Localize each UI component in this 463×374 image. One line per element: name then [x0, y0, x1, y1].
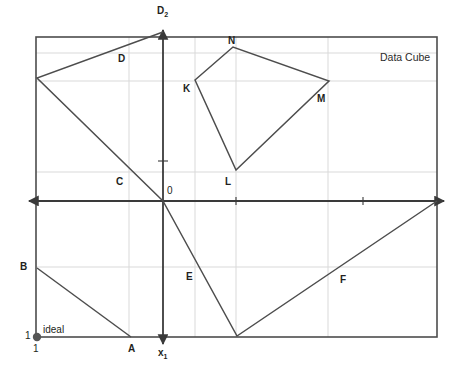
ideal-label: ideal	[43, 325, 64, 335]
diagram-shapes	[37, 32, 437, 337]
shape-quadrilateral-KLMN	[195, 47, 329, 170]
point-label-l: L	[225, 177, 231, 187]
y-axis-label-subscript: 2	[164, 11, 168, 18]
data-cube-diagram: D2 x1 0 ideal 1 1 Data Cube ABCDEFKLMN	[0, 0, 463, 374]
x-axis-label: x1	[158, 348, 167, 360]
point-label-k: K	[183, 84, 190, 94]
shape-upper-left-wedge	[37, 32, 163, 201]
point-label-a: A	[128, 344, 135, 354]
chart-title: Data Cube	[380, 52, 430, 63]
point-label-e: E	[186, 272, 193, 282]
point-label-c: C	[116, 177, 123, 187]
ideal-tick-y-label: 1	[25, 331, 31, 341]
point-label-f: F	[340, 275, 346, 285]
origin-label: 0	[167, 186, 173, 196]
point-label-m: M	[317, 94, 325, 104]
point-label-n: N	[228, 36, 235, 46]
y-axis-label: D2	[157, 6, 168, 18]
ideal-tick-x-label: 1	[33, 344, 39, 354]
ideal-point-marker	[33, 333, 41, 341]
axis-ticks	[158, 161, 363, 205]
ideal-point-dot	[33, 333, 41, 341]
shape-lower-right-vee	[163, 201, 437, 336]
x-axis-label-subscript: 1	[164, 353, 168, 360]
point-label-b: B	[20, 262, 27, 272]
point-label-d: D	[118, 54, 125, 64]
gridlines	[36, 37, 437, 337]
